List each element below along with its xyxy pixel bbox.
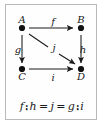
node-label-B: B bbox=[74, 15, 88, 25]
equals-symbol-right: = bbox=[54, 100, 68, 113]
arrow-label-f: f bbox=[47, 17, 59, 27]
arrow-j-upper-segment bbox=[29, 34, 48, 47]
node-label-A: A bbox=[15, 15, 29, 25]
arrow-label-i: i bbox=[47, 73, 59, 83]
composition-equation: f⨟h=j=g⨟i bbox=[20, 100, 84, 113]
equation-term-i: i bbox=[80, 100, 84, 113]
arrow-label-h: h bbox=[77, 45, 89, 55]
node-dot-B bbox=[78, 25, 84, 31]
node-dot-A bbox=[19, 25, 25, 31]
equation-term-g: g bbox=[68, 100, 75, 113]
equation-term-h: h bbox=[30, 100, 37, 113]
figure-root: A B C D f g h i j f⨟h=j=g⨟i bbox=[0, 0, 102, 125]
figure-frame: A B C D f g h i j f⨟h=j=g⨟i bbox=[5, 4, 97, 120]
equation-area: f⨟h=j=g⨟i bbox=[6, 91, 98, 121]
arrow-label-g: g bbox=[12, 45, 24, 55]
commutative-diagram: A B C D f g h i j bbox=[6, 5, 98, 89]
node-label-D: D bbox=[74, 72, 88, 82]
equals-symbol-left: = bbox=[37, 100, 51, 113]
arrow-label-j: j bbox=[48, 43, 60, 53]
node-label-C: C bbox=[15, 72, 29, 82]
arrow-j-lower-segment bbox=[59, 54, 75, 64]
